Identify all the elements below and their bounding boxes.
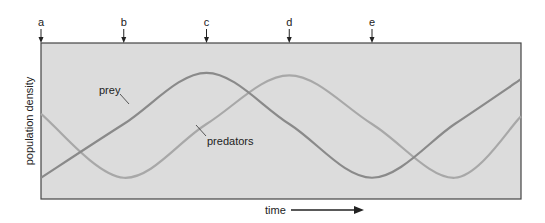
prey-label: prey: [99, 84, 121, 96]
time-marker-label: e: [369, 16, 375, 28]
down-arrow-icon: [121, 37, 126, 43]
time-marker-label: b: [121, 16, 127, 28]
time-marker-a: a: [38, 16, 45, 43]
time-marker-label: a: [38, 16, 45, 28]
down-arrow-icon: [287, 37, 292, 43]
down-arrow-icon: [204, 37, 209, 43]
y-axis-label: population density: [23, 76, 35, 165]
time-marker-label: c: [204, 16, 210, 28]
time-marker-d: d: [286, 16, 292, 43]
time-marker-c: c: [204, 16, 210, 43]
down-arrow-icon: [39, 37, 44, 43]
time-marker-b: b: [121, 16, 127, 43]
predators-label: predators: [207, 135, 254, 147]
time-arrow-head: [354, 206, 364, 214]
time-marker-e: e: [369, 16, 375, 43]
down-arrow-icon: [370, 37, 375, 43]
predator-prey-diagram: abcde prey predators population density …: [0, 0, 545, 223]
time-marker-label: d: [286, 16, 292, 28]
x-axis-label: time: [265, 204, 286, 216]
